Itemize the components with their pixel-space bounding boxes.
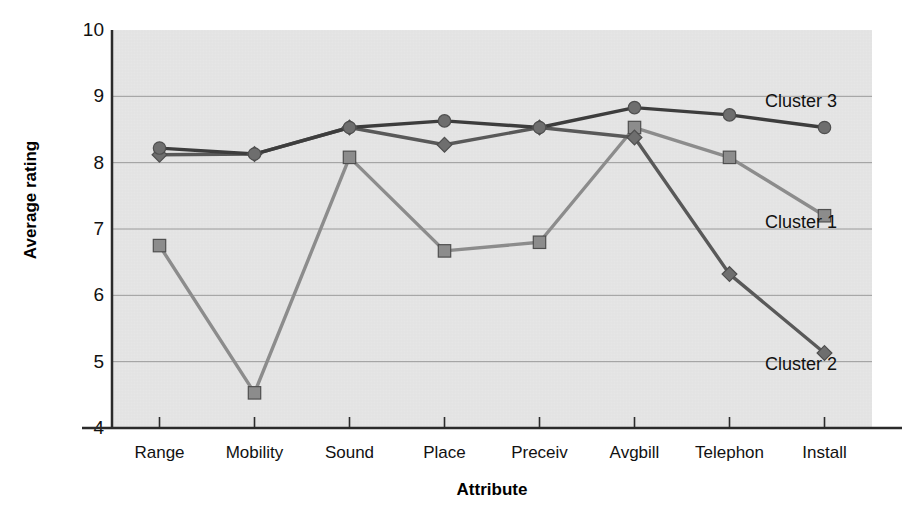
data-point-marker (248, 148, 260, 160)
series-label-cluster-3: Cluster 3 (765, 92, 837, 110)
x-axis-tick-labels: RangeMobilitySoundPlacePreceivAvgbillTel… (0, 440, 915, 470)
data-point-marker (723, 151, 735, 163)
data-point-marker (533, 121, 545, 133)
x-axis-ticks (160, 417, 825, 428)
series-label-cluster-2: Cluster 2 (765, 355, 837, 373)
x-tick-label: Preceiv (511, 444, 568, 461)
series-line (160, 128, 825, 393)
x-tick-label: Sound (325, 444, 374, 461)
chart-svg (0, 0, 915, 516)
x-tick-label: Range (134, 444, 184, 461)
chart-container: Average rating 45678910 Cluster 1Cluster… (0, 0, 915, 516)
data-point-marker (248, 387, 260, 399)
x-tick-label: Place (423, 444, 466, 461)
data-point-marker (343, 151, 355, 163)
data-point-marker (438, 245, 450, 257)
series-markers (152, 101, 832, 399)
data-point-marker (533, 236, 545, 248)
x-tick-label: Mobility (226, 444, 284, 461)
data-point-marker (343, 121, 355, 133)
data-point-marker (153, 142, 165, 154)
data-point-marker (153, 239, 165, 251)
x-tick-label: Install (802, 444, 846, 461)
x-tick-label: Avgbill (610, 444, 660, 461)
x-tick-label: Telephon (695, 444, 764, 461)
data-point-marker (438, 115, 450, 127)
series-label-cluster-1: Cluster 1 (765, 213, 837, 231)
data-point-marker (818, 121, 830, 133)
data-point-marker (437, 137, 452, 152)
x-axis-title: Attribute (112, 480, 872, 500)
data-point-marker (723, 109, 735, 121)
data-point-marker (628, 101, 640, 113)
